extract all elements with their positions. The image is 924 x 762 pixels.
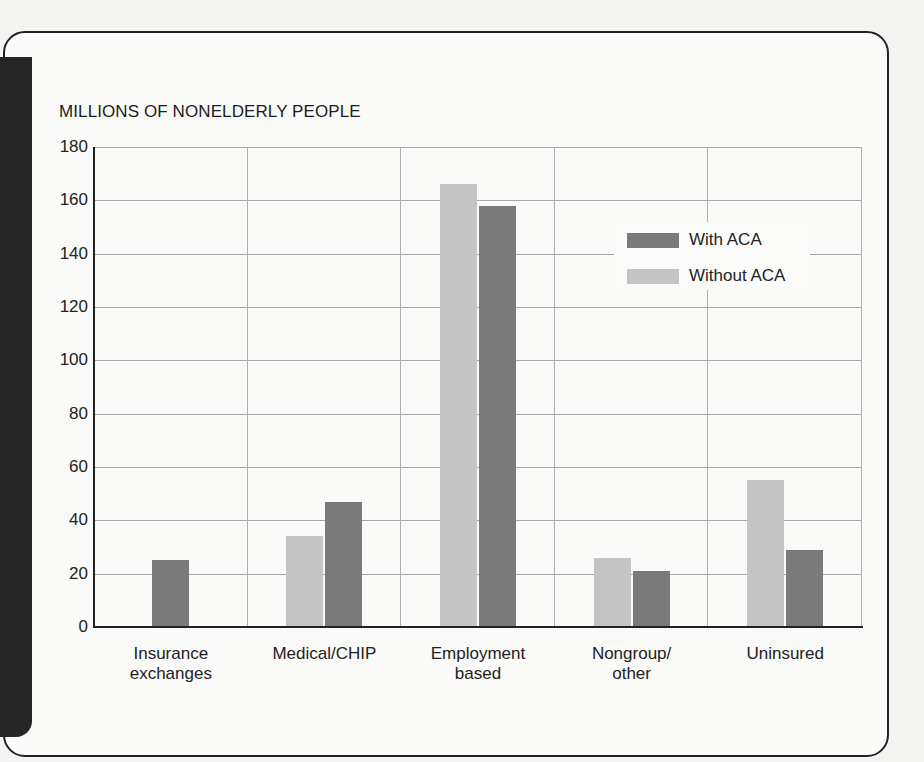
y-tick-label: 140	[48, 244, 88, 264]
bar-with-aca	[786, 550, 823, 627]
h-gridline	[94, 307, 862, 308]
bar-without-aca	[594, 558, 631, 627]
y-tick-label: 100	[48, 350, 88, 370]
legend: With ACA Without ACA	[614, 222, 810, 290]
y-tick-label: 80	[48, 404, 88, 424]
bar-without-aca	[747, 480, 784, 627]
chapter-side-tab	[0, 57, 32, 737]
y-tick-label: 60	[48, 457, 88, 477]
book-page: MILLIONS OF NONELDERLY PEOPLE 0204060801…	[0, 0, 924, 762]
v-gridline	[400, 147, 401, 627]
y-tick-label: 180	[48, 137, 88, 157]
legend-label-with-aca: With ACA	[689, 230, 762, 250]
x-tick-label-line: Employment	[403, 644, 553, 664]
bar-with-aca	[479, 206, 516, 627]
legend-item-with-aca: With ACA	[627, 230, 762, 250]
x-tick-label-line: Uninsured	[710, 644, 860, 664]
y-tick-label: 20	[48, 564, 88, 584]
v-gridline	[247, 147, 248, 627]
x-tick-label-line: Medical/CHIP	[249, 644, 399, 664]
bar-without-aca	[440, 184, 477, 627]
x-tick-label: Insuranceexchanges	[96, 644, 246, 684]
bar-without-aca	[286, 536, 323, 627]
bar-with-aca	[152, 560, 189, 627]
y-axis	[93, 147, 95, 628]
x-tick-label-line: Nongroup/	[557, 644, 707, 664]
x-axis	[93, 626, 863, 628]
v-gridline	[554, 147, 555, 627]
y-tick-label: 160	[48, 190, 88, 210]
legend-item-without-aca: Without ACA	[627, 266, 785, 286]
v-gridline	[861, 147, 862, 627]
h-gridline	[94, 467, 862, 468]
x-tick-label: Uninsured	[710, 644, 860, 664]
x-tick-label-line: other	[557, 664, 707, 684]
legend-swatch-with-aca	[627, 233, 679, 248]
h-gridline	[94, 360, 862, 361]
bar-with-aca	[633, 571, 670, 627]
y-tick-label: 40	[48, 510, 88, 530]
x-tick-label: Medical/CHIP	[249, 644, 399, 664]
v-gridline	[707, 147, 708, 627]
x-tick-label: Nongroup/other	[557, 644, 707, 684]
y-axis-title: MILLIONS OF NONELDERLY PEOPLE	[59, 102, 361, 122]
x-tick-label: Employmentbased	[403, 644, 553, 684]
h-gridline	[94, 414, 862, 415]
x-tick-label-line: Insurance	[96, 644, 246, 664]
legend-label-without-aca: Without ACA	[689, 266, 785, 286]
h-gridline	[94, 200, 862, 201]
bar-with-aca	[325, 502, 362, 627]
plot-area: 020406080100120140160180	[94, 147, 862, 627]
h-gridline	[94, 147, 862, 148]
y-tick-label: 120	[48, 297, 88, 317]
x-tick-label-line: based	[403, 664, 553, 684]
legend-swatch-without-aca	[627, 269, 679, 284]
y-tick-label: 0	[48, 617, 88, 637]
x-tick-label-line: exchanges	[96, 664, 246, 684]
